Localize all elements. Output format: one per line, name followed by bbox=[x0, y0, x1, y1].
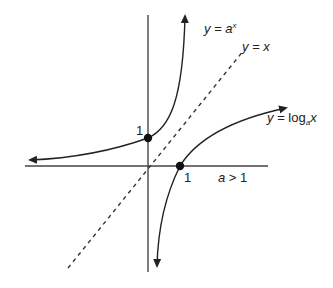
condition-op: > bbox=[229, 170, 237, 185]
identity-line bbox=[68, 50, 244, 268]
exponential-curve bbox=[30, 138, 148, 160]
logarithm-label-arg: x bbox=[310, 110, 317, 125]
y-intercept-dot bbox=[144, 134, 152, 142]
exponential-curve-upper bbox=[148, 16, 185, 138]
logarithm-label-fn: log bbox=[288, 110, 305, 125]
y-intercept-label: 1 bbox=[136, 124, 143, 137]
logarithm-label: y = logax bbox=[267, 111, 317, 127]
exponential-label-exp: x bbox=[233, 21, 237, 30]
condition-val: 1 bbox=[240, 170, 247, 185]
graph-canvas bbox=[0, 0, 333, 288]
exponential-label-base: a bbox=[225, 21, 232, 36]
identity-label-lhs: y bbox=[242, 39, 249, 54]
condition-var: a bbox=[218, 170, 225, 185]
identity-label: y = x bbox=[242, 40, 270, 53]
exponential-label: y = ax bbox=[204, 22, 237, 35]
identity-label-rhs: x bbox=[263, 39, 270, 54]
identity-label-eq: = bbox=[252, 39, 260, 54]
logarithm-label-eq: = bbox=[277, 110, 285, 125]
condition-label: a > 1 bbox=[218, 171, 247, 184]
logarithm-label-lhs: y bbox=[267, 110, 274, 125]
x-intercept-dot bbox=[176, 162, 184, 170]
x-intercept-label: 1 bbox=[184, 171, 191, 184]
logarithm-curve-lower bbox=[157, 166, 180, 266]
exponential-label-lhs: y bbox=[204, 21, 211, 36]
exponential-label-eq: = bbox=[214, 21, 222, 36]
